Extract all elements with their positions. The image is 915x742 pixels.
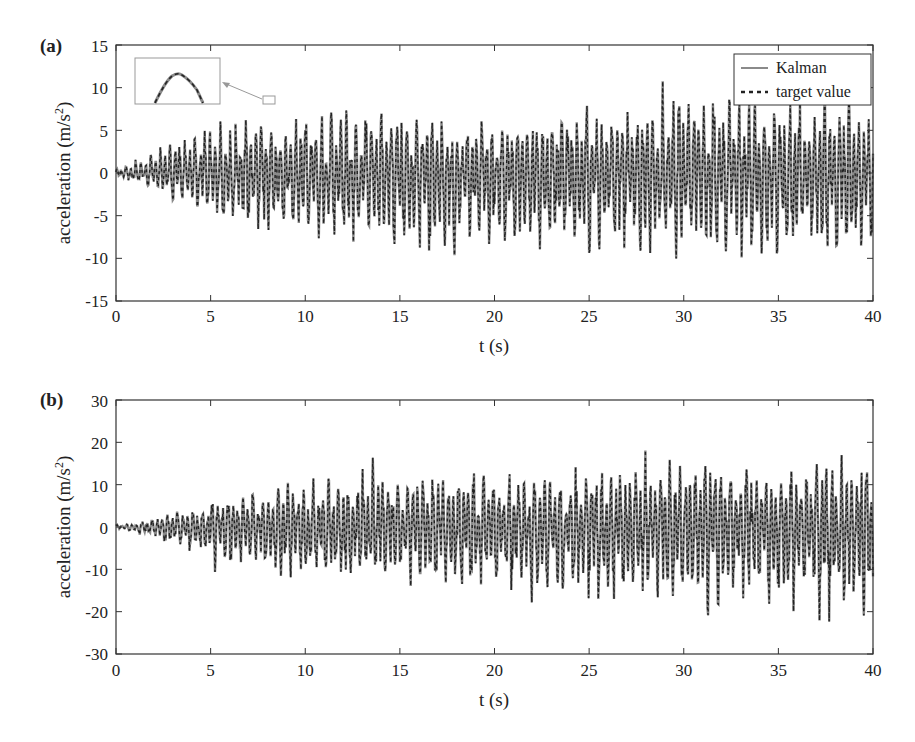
panel-a-x-tick-labels: 0 5 10 15 20 25 30 35 40 bbox=[112, 307, 882, 326]
x-tick-label: 35 bbox=[770, 307, 787, 326]
y-tick-label: 10 bbox=[91, 477, 108, 496]
x-tick-label: 15 bbox=[391, 307, 408, 326]
y-tick-label: -10 bbox=[85, 561, 108, 580]
y-tick-label: 0 bbox=[100, 164, 109, 183]
y-tick-label: -30 bbox=[85, 645, 108, 664]
y-tick-label: -5 bbox=[94, 207, 108, 226]
legend-kalman-label: Kalman bbox=[776, 59, 827, 76]
y-tick-label: -20 bbox=[85, 603, 108, 622]
panel-a-label: (a) bbox=[40, 35, 62, 57]
panel-a-zoom-inset bbox=[135, 58, 275, 104]
x-tick-label: 40 bbox=[865, 307, 882, 326]
kalman-line bbox=[116, 81, 873, 258]
kalman-line bbox=[116, 450, 873, 621]
inset-source-box bbox=[263, 96, 275, 104]
y-tick-label: 30 bbox=[91, 392, 108, 411]
y-tick-label: 20 bbox=[91, 434, 108, 453]
x-tick-label: 40 bbox=[865, 661, 882, 680]
legend: Kalman target value bbox=[734, 54, 871, 105]
x-tick-label: 10 bbox=[297, 307, 314, 326]
panel-a-signal bbox=[116, 81, 873, 258]
x-tick-label: 35 bbox=[770, 661, 787, 680]
x-tick-label: 20 bbox=[486, 307, 503, 326]
panel-a-y-tick-labels: 15 10 5 0 -5 -10 -15 bbox=[85, 37, 108, 311]
y-tick-label: 15 bbox=[91, 37, 108, 56]
panel-b-y-axis-label: acceleration (m/s2) bbox=[52, 456, 75, 599]
panel-b-y-tick-labels: 30 20 10 0 -10 -20 -30 bbox=[85, 392, 108, 664]
x-tick-label: 5 bbox=[206, 661, 215, 680]
x-tick-label: 15 bbox=[391, 661, 408, 680]
legend-target-label: target value bbox=[776, 83, 851, 101]
x-tick-label: 0 bbox=[112, 307, 121, 326]
y-tick-label: 10 bbox=[91, 79, 108, 98]
x-tick-label: 30 bbox=[675, 307, 692, 326]
x-tick-label: 25 bbox=[581, 307, 598, 326]
panel-b: (b) 30 20 10 0 -10 -20 -30 0 5 10 15 20 … bbox=[40, 389, 882, 711]
y-tick-label: 5 bbox=[100, 122, 109, 141]
panel-a: (a) 15 10 5 0 -5 -10 -15 0 5 10 15 20 25… bbox=[40, 35, 882, 357]
figure: (a) 15 10 5 0 -5 -10 -15 0 5 10 15 20 25… bbox=[0, 0, 915, 742]
panel-a-y-axis-label: acceleration (m/s2) bbox=[52, 102, 75, 245]
panel-a-x-axis-label: t (s) bbox=[479, 335, 509, 357]
panel-b-signal bbox=[116, 450, 873, 621]
x-tick-label: 20 bbox=[486, 661, 503, 680]
inset-arrow bbox=[224, 83, 262, 99]
panel-b-plot-area bbox=[116, 400, 873, 654]
y-tick-label: -10 bbox=[85, 249, 108, 268]
panel-b-label: (b) bbox=[40, 389, 63, 411]
y-tick-label: 0 bbox=[100, 519, 109, 538]
x-tick-label: 10 bbox=[297, 661, 314, 680]
panel-b-x-tick-labels: 0 5 10 15 20 25 30 35 40 bbox=[112, 661, 882, 680]
x-tick-label: 5 bbox=[206, 307, 215, 326]
inset-box bbox=[135, 58, 220, 104]
panel-b-x-axis-label: t (s) bbox=[479, 689, 509, 711]
x-tick-label: 0 bbox=[112, 661, 121, 680]
x-tick-label: 30 bbox=[675, 661, 692, 680]
x-tick-label: 25 bbox=[581, 661, 598, 680]
y-tick-label: -15 bbox=[85, 292, 108, 311]
